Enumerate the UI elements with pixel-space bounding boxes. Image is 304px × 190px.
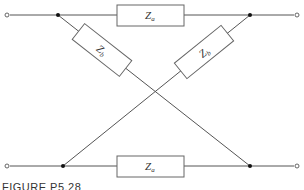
impedance-zb-right: Zb: [174, 25, 233, 78]
lattice-network-diagram: Za Za Zb Zb: [0, 0, 304, 190]
node-bottom-right: [248, 164, 252, 168]
node-top-right: [248, 13, 252, 17]
impedance-za-bottom: Za: [117, 156, 184, 177]
impedance-za-top: Za: [117, 5, 184, 26]
terminal-bottom-right: [295, 164, 299, 168]
node-bottom-left: [61, 164, 65, 168]
node-top-left: [56, 13, 60, 17]
impedance-zb-left: Zb: [72, 24, 132, 77]
terminal-top-left: [5, 13, 9, 17]
terminal-bottom-left: [5, 164, 9, 168]
figure-caption: FIGURE P5.28: [2, 181, 81, 190]
terminal-top-right: [295, 13, 299, 17]
